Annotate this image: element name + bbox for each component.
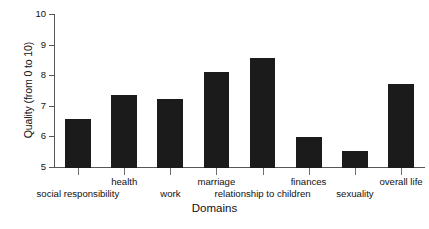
x-label: health [111, 176, 137, 187]
x-tick [170, 168, 171, 175]
y-axis-title: Quality (from 0 to 10) [22, 10, 34, 170]
y-tick-label-wrap: 8 [8, 70, 46, 80]
y-tick-label-6: 6 [12, 131, 46, 141]
x-label: finances [291, 176, 327, 187]
y-tick-label-7: 7 [12, 101, 46, 111]
bar [111, 95, 137, 168]
y-tick-label-10: 10 [12, 9, 46, 19]
y-tick-label-wrap: 10 [8, 9, 46, 19]
x-label: work [160, 188, 180, 199]
x-axis-title: Domains [0, 202, 429, 214]
bar [204, 72, 230, 168]
x-tick [216, 168, 217, 175]
x-label: overall life [379, 176, 422, 187]
y-tick-label-wrap: 6 [8, 131, 46, 141]
x-label: social responsibility [37, 188, 120, 199]
x-tick [355, 168, 356, 175]
x-label: relationship to children [215, 188, 311, 199]
y-tick-label-8: 8 [12, 70, 46, 80]
plot-area [55, 14, 424, 168]
bar [65, 119, 91, 168]
bar [250, 58, 276, 168]
x-label: marriage [197, 176, 235, 187]
y-tick-label-wrap: 7 [8, 101, 46, 111]
y-tick-label-5: 5 [12, 162, 46, 172]
bar-chart: Quality (from 0 to 10) 5678910 social re… [0, 0, 429, 229]
x-label: sexuality [336, 188, 373, 199]
x-tick [401, 168, 402, 175]
x-tick [78, 168, 79, 175]
y-tick-label-wrap: 5 [8, 162, 46, 172]
y-tick-label-wrap: 9 [8, 40, 46, 50]
x-tick [124, 168, 125, 175]
bar [296, 137, 322, 168]
y-tick-label-9: 9 [12, 40, 46, 50]
bar [342, 151, 368, 168]
bar [157, 99, 183, 168]
bar [388, 84, 414, 168]
x-tick [263, 168, 264, 175]
x-tick [309, 168, 310, 175]
